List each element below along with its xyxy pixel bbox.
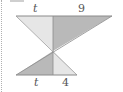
label-top-left: t	[33, 3, 37, 14]
diagram-frame: t 9 t 4	[0, 0, 123, 92]
label-bottom-right: 4	[62, 77, 69, 88]
label-top-right: 9	[78, 3, 85, 14]
label-bottom-left: t	[34, 77, 38, 88]
